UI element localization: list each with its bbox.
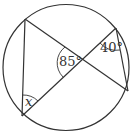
angle-label-85: 85° xyxy=(59,54,82,69)
circle-geometry-diagram: 85° 40° x xyxy=(0,0,133,135)
angle-label-x: x xyxy=(25,94,33,109)
angle-label-40: 40° xyxy=(100,40,123,55)
